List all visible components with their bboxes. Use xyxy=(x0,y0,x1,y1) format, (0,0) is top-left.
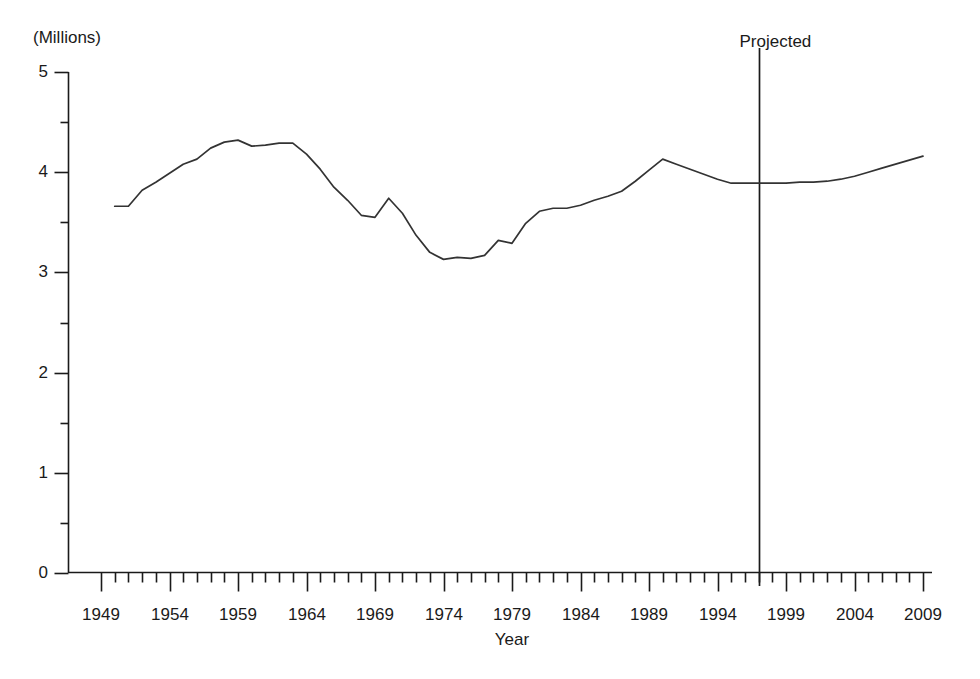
x-tick-label-1969: 1969 xyxy=(345,605,405,625)
y-tick-label-0: 0 xyxy=(22,563,48,583)
x-tick-label-1949: 1949 xyxy=(71,605,131,625)
x-tick-label-2009: 2009 xyxy=(893,605,953,625)
y-tick-label-5: 5 xyxy=(22,62,48,82)
x-tick-label-2004: 2004 xyxy=(825,605,885,625)
y-tick-label-4: 4 xyxy=(22,162,48,182)
chart-canvas xyxy=(0,0,980,679)
data-series-group xyxy=(115,140,923,259)
x-tick-label-1989: 1989 xyxy=(619,605,679,625)
x-tick-label-1979: 1979 xyxy=(482,605,542,625)
projected-annotation-label: Projected xyxy=(740,32,812,52)
x-tick-label-1964: 1964 xyxy=(277,605,337,625)
axes-group xyxy=(69,72,933,573)
y-tick-label-3: 3 xyxy=(22,262,48,282)
x-tick-label-1984: 1984 xyxy=(551,605,611,625)
x-ticks-group xyxy=(102,573,924,592)
x-axis-title: Year xyxy=(452,630,572,650)
x-tick-label-1954: 1954 xyxy=(140,605,200,625)
line-chart: (Millions) Projected Year 5 4 3 2 1 0 19… xyxy=(0,0,980,679)
x-tick-label-1994: 1994 xyxy=(688,605,748,625)
y-tick-label-1: 1 xyxy=(22,463,48,483)
series-line-value xyxy=(115,140,923,259)
y-tick-label-2: 2 xyxy=(22,363,48,383)
x-tick-label-1974: 1974 xyxy=(414,605,474,625)
x-tick-label-1999: 1999 xyxy=(756,605,816,625)
y-ticks-group xyxy=(55,73,69,574)
y-axis-unit-label: (Millions) xyxy=(33,28,101,48)
x-tick-label-1959: 1959 xyxy=(208,605,268,625)
